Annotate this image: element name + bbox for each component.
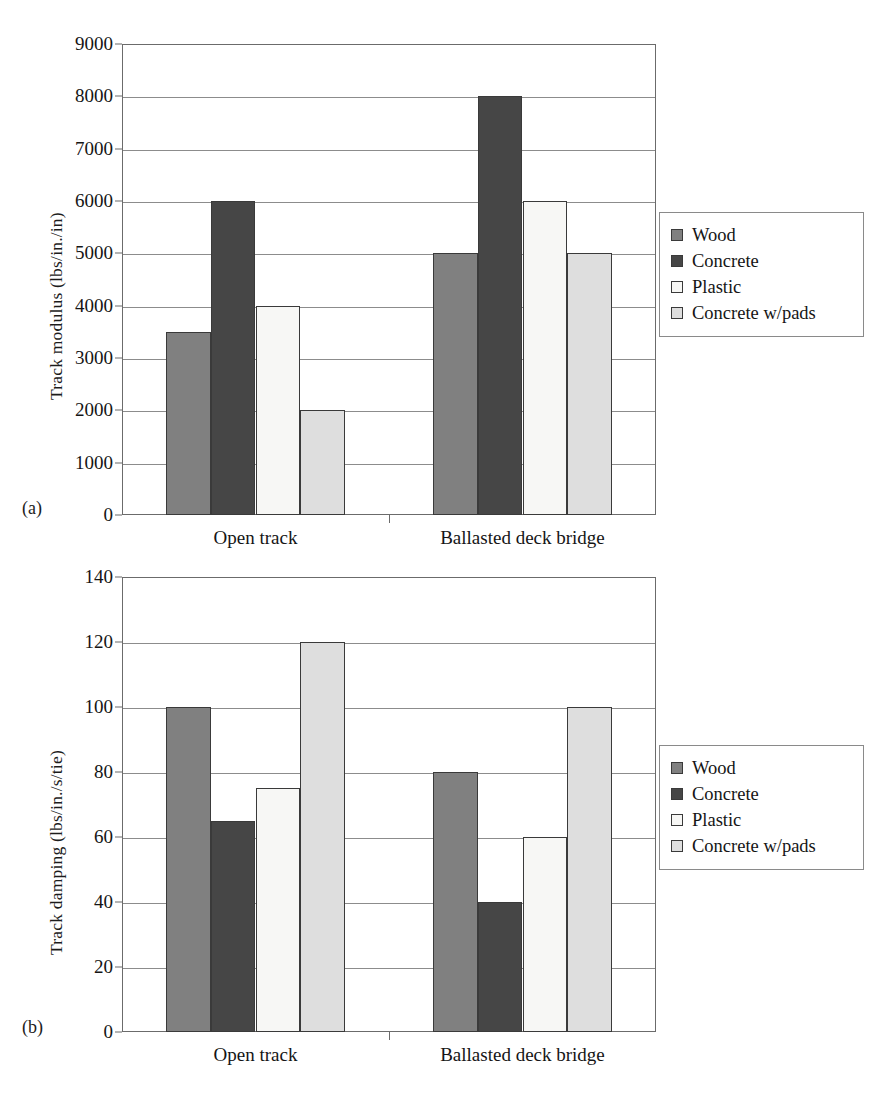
x-axis-category-label: Open track (214, 1044, 298, 1066)
chart-panel-b: Track damping (lbs/in./s/tie) 0204060801… (0, 555, 886, 1105)
legend-item-label: Concrete (692, 252, 759, 271)
y-axis-ticks-a: 0100020003000400050006000700080009000 (0, 44, 122, 515)
legend-item[interactable]: Concrete (671, 248, 850, 274)
y-axis-tick-mark (115, 96, 122, 97)
legend-item[interactable]: Concrete w/pads (671, 300, 850, 326)
bar (433, 772, 478, 1032)
bar (523, 201, 568, 515)
y-axis-tick-mark (115, 358, 122, 359)
bar (567, 253, 612, 515)
bar (166, 707, 211, 1032)
bar (300, 642, 345, 1032)
legend-item-label: Concrete (692, 785, 759, 804)
y-axis-tick-mark (115, 148, 122, 149)
x-axis-category-label: Ballasted deck bridge (440, 527, 605, 549)
chart-panel-a: Track modulus (lbs/in./in) 0100020003000… (0, 0, 886, 560)
legend-item-label: Wood (692, 759, 736, 778)
legend-item[interactable]: Concrete (671, 781, 850, 807)
y-axis-tick-mark (115, 967, 122, 968)
bar (211, 821, 256, 1032)
y-axis-tick-mark (115, 462, 122, 463)
bar (567, 707, 612, 1032)
legend-swatch-icon (671, 281, 683, 293)
bar (300, 410, 345, 515)
legend-swatch-icon (671, 229, 683, 241)
legend-a: WoodConcretePlasticConcrete w/pads (659, 212, 864, 337)
y-axis-tick-mark (115, 44, 122, 45)
y-axis-tick-mark (115, 772, 122, 773)
x-axis-tick-mark (389, 1032, 390, 1040)
y-axis-tick-mark (115, 837, 122, 838)
legend-item-label: Wood (692, 226, 736, 245)
legend-swatch-icon (671, 762, 683, 774)
y-axis-tick-mark (115, 902, 122, 903)
y-axis-tick-mark (115, 515, 122, 516)
y-axis-tick-mark (115, 577, 122, 578)
y-axis-tick-mark (115, 642, 122, 643)
bar (256, 306, 301, 515)
legend-item[interactable]: Wood (671, 755, 850, 781)
panel-tag-a: (a) (22, 498, 42, 519)
legend-item[interactable]: Wood (671, 222, 850, 248)
x-axis-b: Open trackBallasted deck bridge (122, 1032, 656, 1092)
y-axis-tick-mark (115, 1032, 122, 1033)
legend-swatch-icon (671, 814, 683, 826)
legend-item-label: Plastic (692, 811, 741, 830)
bar (523, 837, 568, 1032)
bar (478, 96, 523, 515)
legend-item[interactable]: Concrete w/pads (671, 833, 850, 859)
bar (478, 902, 523, 1032)
bars-group-b (122, 577, 656, 1032)
x-axis-category-label: Ballasted deck bridge (440, 1044, 605, 1066)
legend-swatch-icon (671, 255, 683, 267)
y-axis-tick-mark (115, 201, 122, 202)
x-axis-category-label: Open track (214, 527, 298, 549)
bars-group-a (122, 44, 656, 515)
legend-swatch-icon (671, 840, 683, 852)
legend-item-label: Concrete w/pads (692, 837, 816, 856)
y-axis-tick-mark (115, 305, 122, 306)
bar (166, 332, 211, 515)
panel-tag-b: (b) (22, 1017, 43, 1038)
y-axis-ticks-b: 020406080100120140 (0, 577, 122, 1032)
legend-item-label: Concrete w/pads (692, 304, 816, 323)
bar (433, 253, 478, 515)
bar (256, 788, 301, 1032)
y-axis-tick-mark (115, 707, 122, 708)
y-axis-tick-mark (115, 410, 122, 411)
legend-b: WoodConcretePlasticConcrete w/pads (659, 745, 864, 870)
x-axis-tick-mark (389, 515, 390, 523)
legend-item[interactable]: Plastic (671, 807, 850, 833)
legend-item-label: Plastic (692, 278, 741, 297)
legend-item[interactable]: Plastic (671, 274, 850, 300)
bar (211, 201, 256, 515)
legend-swatch-icon (671, 788, 683, 800)
legend-swatch-icon (671, 307, 683, 319)
y-axis-tick-mark (115, 253, 122, 254)
